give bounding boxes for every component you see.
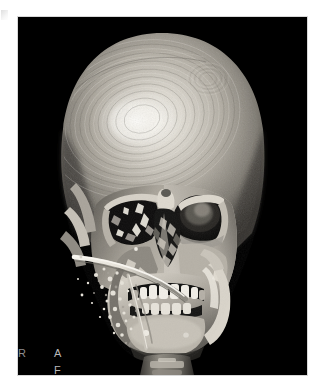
orientation-marker-foot: F bbox=[54, 365, 61, 375]
edge-artifact bbox=[1, 10, 8, 20]
screenshot-root: A F R bbox=[0, 0, 320, 392]
orientation-marker-right: R bbox=[18, 348, 26, 359]
ct-image-viewport[interactable]: A F R bbox=[18, 17, 307, 375]
ct-volume-render bbox=[18, 17, 307, 375]
orientation-marker-anterior: A bbox=[54, 348, 61, 359]
